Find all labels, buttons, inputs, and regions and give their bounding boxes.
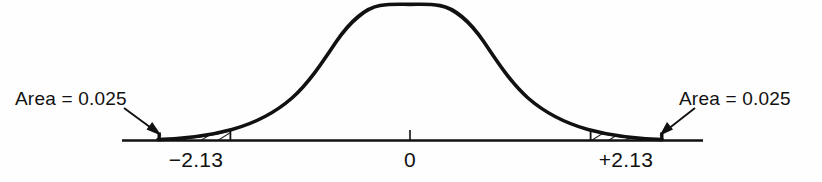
normal-curve (158, 4, 662, 139)
axis-label-zero: 0 (378, 148, 442, 172)
axis-label-minus-2-13: −2.13 (148, 148, 244, 172)
axis-label-plus-2-13: +2.13 (578, 148, 674, 172)
left-callout-arrow (124, 108, 162, 136)
normal-distribution-figure: Area = 0.025 Area = 0.025 −2.13 0 +2.13 (0, 0, 822, 182)
left-tail-area-label: Area = 0.025 (15, 88, 127, 110)
right-callout-arrow (660, 108, 696, 136)
right-tail-area-label: Area = 0.025 (679, 88, 791, 110)
